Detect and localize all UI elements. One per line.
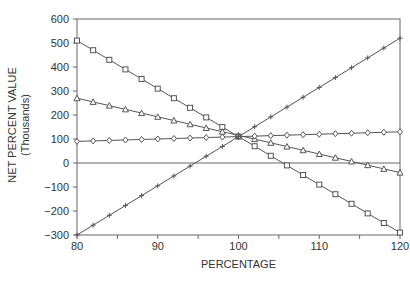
diamond-marker	[204, 135, 209, 141]
square-marker	[349, 201, 354, 206]
square-marker	[107, 57, 112, 62]
y-tick-label: 300	[51, 85, 69, 97]
diamond-marker	[220, 134, 225, 140]
x-tick-label: 120	[391, 240, 409, 252]
y-axis-subtitle: (Thousands)	[19, 94, 31, 156]
diamond-marker	[317, 131, 322, 137]
square-marker	[123, 67, 128, 72]
diamond-marker	[349, 130, 354, 136]
y-tick-label: −100	[44, 181, 69, 193]
square-marker	[139, 77, 144, 82]
diamond-marker	[107, 137, 112, 143]
y-tick-label: 600	[51, 13, 69, 25]
y-tick-label: 100	[51, 133, 69, 145]
diamond-marker	[188, 135, 193, 141]
square-marker	[188, 105, 193, 110]
square-marker	[171, 96, 176, 101]
square-marker	[91, 48, 96, 53]
diamond-marker	[365, 130, 370, 136]
square-marker	[204, 115, 209, 120]
square-marker	[398, 230, 403, 235]
y-tick-label: 400	[51, 61, 69, 73]
x-tick-label: 90	[152, 240, 164, 252]
square-marker	[365, 211, 370, 216]
square-marker	[252, 144, 257, 149]
square-marker	[155, 86, 160, 91]
square-marker	[284, 163, 289, 168]
diamond-marker	[398, 129, 403, 135]
x-axis-title: PERCENTAGE	[77, 258, 400, 270]
diamond-marker	[381, 129, 386, 135]
line-chart: 6005004003002001000−100−200−300809010011…	[0, 0, 410, 282]
diamond-marker	[171, 136, 176, 142]
x-tick-label: 100	[229, 240, 247, 252]
y-tick-label: 0	[63, 157, 69, 169]
triangle-marker	[74, 95, 80, 101]
diamond-marker	[139, 136, 144, 142]
square-marker	[301, 173, 306, 178]
y-axis-title: NET PERCENT VALUE	[6, 67, 18, 183]
diamond-marker	[123, 137, 128, 143]
square-marker	[333, 192, 338, 197]
square-marker	[75, 38, 80, 43]
x-tick-label: 110	[310, 240, 328, 252]
x-tick-label: 80	[71, 240, 83, 252]
y-tick-label: 500	[51, 37, 69, 49]
diamond-marker	[268, 133, 273, 139]
diamond-marker	[91, 138, 96, 144]
diamond-marker	[155, 136, 160, 142]
y-axis-label: NET PERCENT VALUE (Thousands)	[4, 20, 44, 230]
y-tick-label: −300	[44, 229, 69, 241]
diamond-marker	[333, 131, 338, 137]
diamond-marker	[284, 132, 289, 138]
diamond-marker	[301, 132, 306, 138]
y-tick-label: 200	[51, 109, 69, 121]
square-marker	[317, 182, 322, 187]
y-tick-label: −200	[44, 205, 69, 217]
square-marker	[381, 221, 386, 226]
square-marker	[268, 153, 273, 158]
